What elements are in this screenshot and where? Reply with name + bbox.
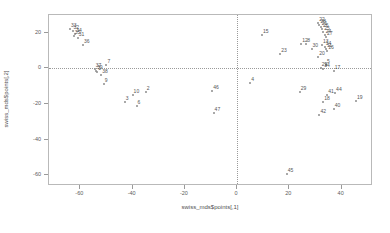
data-point-marker [355, 100, 357, 102]
data-point-label: 36 [84, 38, 90, 44]
data-point-marker [322, 101, 324, 103]
data-point-marker [311, 48, 313, 50]
data-point-label: 18 [324, 95, 330, 101]
data-point-label: 16 [328, 44, 334, 50]
x-axis-label: swiss_mds$points[,1] [48, 203, 372, 211]
data-point-marker [136, 105, 138, 107]
data-point-label: 15 [263, 28, 269, 34]
data-point-marker [321, 28, 323, 30]
data-point-label: 42 [320, 108, 326, 114]
y-tick-mark [44, 103, 48, 104]
data-point-label: 19 [357, 94, 363, 100]
x-tick-mark [184, 185, 185, 189]
y-tick-mark [44, 32, 48, 33]
y-tick-label: -60 [33, 171, 41, 178]
y-axis-label: swiss_mds$points[,2] [2, 70, 10, 127]
data-point-marker [213, 112, 215, 114]
y-tick-label: 20 [35, 28, 41, 35]
data-point-marker [317, 56, 319, 58]
data-point-marker [103, 83, 105, 85]
x-tick-mark [236, 185, 237, 189]
data-point-label: 30 [313, 42, 319, 48]
data-point-marker [145, 91, 147, 93]
data-point-marker [322, 31, 324, 33]
data-point-marker [333, 70, 335, 72]
data-point-marker [305, 43, 307, 45]
y-tick-label: -40 [33, 135, 41, 142]
data-point-marker [77, 37, 79, 39]
data-point-marker [72, 30, 74, 32]
data-point-marker [299, 91, 301, 93]
data-point-label: 20 [319, 50, 325, 56]
x-tick-mark [288, 185, 289, 189]
data-point-marker [69, 28, 71, 30]
data-point-marker [211, 90, 213, 92]
x-tick-mark [79, 185, 80, 189]
x-tick-label: -40 [128, 190, 136, 197]
x-tick-label: 20 [285, 190, 291, 197]
data-point-marker [73, 35, 75, 37]
x-tick-label: 0 [235, 190, 238, 197]
data-point-label: 46 [213, 84, 219, 90]
x-tick-label: -60 [75, 190, 83, 197]
data-point-label: 44 [336, 86, 342, 92]
data-point-marker [300, 43, 302, 45]
mds-scatter-figure: 3332343531367373913891023646471542312830… [0, 0, 390, 233]
data-point-label: 2 [147, 85, 150, 91]
data-point-label: 40 [335, 102, 341, 108]
x-tick-mark [341, 185, 342, 189]
data-point-label: 10 [134, 88, 140, 94]
reference-line-vertical [237, 15, 238, 184]
data-point-marker [318, 114, 320, 116]
data-point-label: 31 [79, 31, 85, 37]
data-point-label: 23 [281, 47, 287, 53]
data-point-label: 38 [102, 68, 108, 74]
x-tick-label: 40 [338, 190, 344, 197]
data-point-label: 8 [307, 37, 310, 43]
data-point-marker [249, 82, 251, 84]
data-point-label: 9 [105, 77, 108, 83]
data-point-marker [82, 44, 84, 46]
x-tick-mark [132, 185, 133, 189]
y-tick-label: 0 [38, 64, 41, 71]
data-point-marker [96, 71, 98, 73]
data-point-label: 6 [138, 99, 141, 105]
data-point-label: 34 [324, 62, 330, 68]
data-point-label: 3 [126, 95, 129, 101]
data-point-label: 17 [335, 64, 341, 70]
x-tick-label: -20 [180, 190, 188, 197]
plot-frame: 3332343531367373913891023646471542312830… [48, 14, 372, 185]
y-tick-mark [44, 139, 48, 140]
data-point-marker [334, 92, 336, 94]
data-point-marker [333, 108, 335, 110]
data-point-marker [132, 94, 134, 96]
data-point-label: 4 [251, 76, 254, 82]
data-point-marker [124, 101, 126, 103]
data-point-marker [100, 74, 102, 76]
data-point-label: 29 [301, 85, 307, 91]
y-tick-label: -20 [33, 100, 41, 107]
data-point-label: 7 [107, 58, 110, 64]
y-tick-mark [44, 67, 48, 68]
data-point-label: 27 [327, 30, 333, 36]
data-point-marker [321, 44, 323, 46]
plot-area: 3332343531367373913891023646471542312830… [49, 15, 371, 184]
data-point-marker [279, 53, 281, 55]
data-point-label: 1 [98, 65, 101, 71]
y-tick-mark [44, 174, 48, 175]
data-point-marker [286, 173, 288, 175]
data-point-marker [326, 50, 328, 52]
data-point-marker [105, 64, 107, 66]
data-point-marker [261, 34, 263, 36]
data-point-label: 47 [215, 106, 221, 112]
data-point-label: 41 [328, 88, 334, 94]
data-point-label: 45 [288, 167, 294, 173]
